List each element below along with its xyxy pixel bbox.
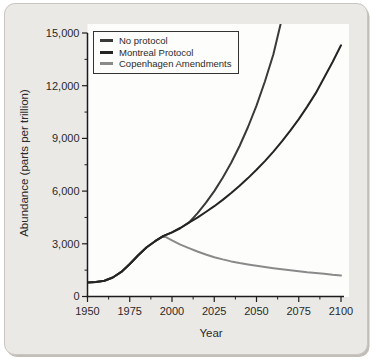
x-tick-label: 2100 [329,305,353,317]
x-tick-label: 2075 [287,305,311,317]
line-swatch-icon [100,39,113,42]
legend-label: Copenhagen Amendments [119,58,232,70]
y-tick-label: 0 [73,290,79,302]
line-swatch-icon [100,62,113,65]
figure-stage: 03,0006,0009,00012,00015,000195019752000… [0,0,372,362]
x-axis-title: Year [199,327,222,339]
chart-legend: No protocol Montreal Protocol Copenhagen… [93,31,239,74]
legend-item-copenhagen-amendments: Copenhagen Amendments [100,58,232,70]
legend-label: Montreal Protocol [119,47,193,59]
y-axis-title: Abundance (parts per trillion) [18,89,30,237]
x-tick-label: 2000 [160,305,184,317]
y-tick-label: 15,000 [46,27,80,39]
x-tick-label: 1975 [118,305,142,317]
x-tick-label: 2025 [202,305,226,317]
y-tick-label: 3,000 [52,238,80,250]
y-tick-label: 6,000 [52,185,80,197]
line-swatch-icon [100,51,113,54]
y-tick-label: 12,000 [46,80,80,92]
y-tick-label: 9,000 [52,132,80,144]
x-tick-label: 1950 [75,305,99,317]
legend-label: No protocol [119,35,168,47]
legend-item-no-protocol: No protocol [100,35,232,47]
x-tick-label: 2050 [244,305,268,317]
legend-item-montreal-protocol: Montreal Protocol [100,47,232,59]
